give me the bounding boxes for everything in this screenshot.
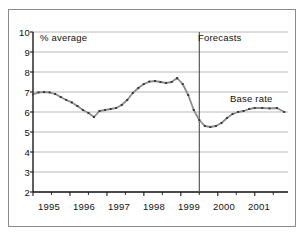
y-tick-7: 7 — [12, 87, 30, 98]
data-point-marker — [71, 101, 73, 103]
data-point-marker — [269, 107, 271, 109]
data-point-marker — [248, 108, 250, 110]
y-tick-4: 4 — [12, 147, 30, 158]
y-tick-5: 5 — [12, 127, 30, 138]
data-point-marker — [204, 125, 206, 127]
data-point-marker — [276, 107, 278, 109]
y-tick-8: 8 — [12, 67, 30, 78]
data-point-marker — [220, 122, 222, 124]
data-point-marker — [243, 110, 245, 112]
units-note-label: % average — [40, 32, 87, 43]
data-point-marker — [54, 93, 56, 95]
y-tick-3: 3 — [12, 167, 30, 178]
data-point-marker — [187, 94, 189, 96]
x-tick-1999: 1999 — [176, 201, 202, 212]
data-point-marker — [137, 87, 139, 89]
data-point-marker — [43, 91, 45, 93]
data-point-marker — [176, 77, 178, 79]
figure-container: 10 9 8 7 6 5 4 3 2 1995 1996 1997 1998 1… — [0, 0, 304, 236]
data-point-marker — [32, 93, 34, 95]
data-point-marker — [165, 82, 167, 84]
data-point-marker — [226, 117, 228, 119]
data-point-marker — [93, 116, 95, 118]
data-point-marker — [76, 105, 78, 107]
y-tick-2: 2 — [12, 187, 30, 198]
data-point-marker — [171, 81, 173, 83]
data-point-marker — [126, 99, 128, 101]
data-point-marker — [121, 104, 123, 106]
data-point-marker — [110, 108, 112, 110]
forecasts-note-label: Forecasts — [198, 32, 242, 43]
x-tick-1995: 1995 — [36, 201, 62, 212]
x-tick-1997: 1997 — [106, 201, 132, 212]
data-point-marker — [104, 109, 106, 111]
data-point-marker — [237, 111, 239, 113]
data-point-marker — [60, 96, 62, 98]
x-tick-1996: 1996 — [71, 201, 97, 212]
data-point-marker — [82, 109, 84, 111]
data-point-marker — [254, 107, 256, 109]
data-point-marker — [115, 107, 117, 109]
data-point-marker — [87, 112, 89, 114]
data-point-marker — [261, 107, 263, 109]
data-point-marker — [99, 110, 101, 112]
data-point-marker — [148, 81, 150, 83]
y-tick-6: 6 — [12, 107, 30, 118]
x-tick-2000: 2000 — [211, 201, 237, 212]
series-label-base-rate: Base rate — [230, 93, 272, 104]
data-point-marker — [182, 83, 184, 85]
data-point-marker — [160, 81, 162, 83]
data-point-marker — [154, 80, 156, 82]
data-point-marker — [283, 111, 285, 113]
x-tick-2001: 2001 — [246, 201, 272, 212]
data-point-marker — [38, 91, 40, 93]
data-point-marker — [65, 99, 67, 101]
data-point-marker — [132, 92, 134, 94]
y-tick-9: 9 — [12, 47, 30, 58]
data-point-marker — [143, 83, 145, 85]
data-point-marker — [209, 126, 211, 128]
x-tick-1998: 1998 — [141, 201, 167, 212]
data-point-marker — [232, 113, 234, 115]
data-point-marker — [198, 119, 200, 121]
data-point-marker — [193, 109, 195, 111]
data-point-marker — [215, 125, 217, 127]
data-point-marker — [49, 91, 51, 93]
y-tick-10: 10 — [12, 27, 30, 38]
